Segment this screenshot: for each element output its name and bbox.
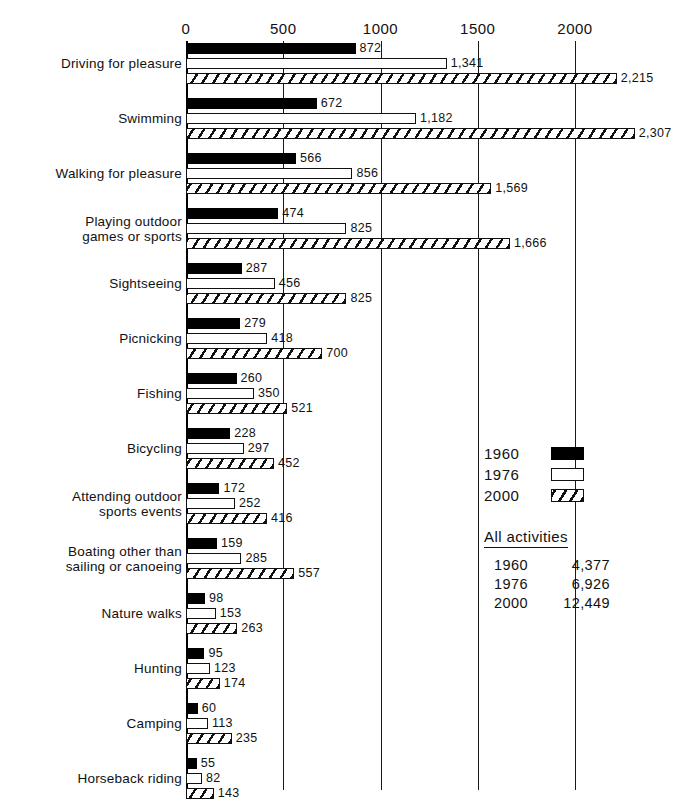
bar-1960 (186, 483, 219, 494)
bar-2000 (186, 73, 617, 84)
bar-2000 (186, 458, 274, 469)
bar-1976 (186, 278, 275, 289)
bar-track: 55 (0, 756, 696, 771)
totals-row: 200012,449 (484, 593, 610, 612)
bar-value-label: 2,307 (639, 126, 672, 141)
totals-year: 1960 (484, 557, 546, 573)
totals-value: 12,449 (546, 595, 610, 611)
bar-track: 82 (0, 771, 696, 786)
x-axis-tick-label: 0 (182, 20, 191, 37)
bar-track: 1,341 (0, 56, 696, 71)
bar-1960 (186, 208, 278, 219)
bar-track: 566 (0, 151, 696, 166)
bar-value-label: 521 (291, 401, 313, 416)
legend-item-label: 1976 (484, 466, 534, 483)
bar-value-label: 172 (223, 481, 245, 496)
bar-value-label: 825 (350, 291, 372, 306)
bar-value-label: 260 (241, 371, 263, 386)
category-group: Swimming6721,1822,307 (0, 96, 696, 151)
bar-1976 (186, 553, 241, 564)
bar-value-label: 228 (234, 426, 256, 441)
bar-track: 474 (0, 206, 696, 221)
diagonal-hatch-swatch (551, 489, 584, 502)
bar-value-label: 418 (271, 331, 293, 346)
bar-value-label: 856 (356, 166, 378, 181)
bar-track: 172 (0, 481, 696, 496)
bar-track: 350 (0, 386, 696, 401)
category-group: Picnicking279418700 (0, 316, 696, 371)
solid-black-swatch (551, 447, 584, 460)
bar-value-label: 98 (209, 591, 224, 606)
bar-1976 (186, 333, 267, 344)
category-group: Sightseeing287456825 (0, 261, 696, 316)
bar-value-label: 1,341 (451, 56, 484, 71)
bar-1976 (186, 663, 210, 674)
bar-1960 (186, 758, 197, 769)
bar-1960 (186, 98, 317, 109)
category-rows: Driving for pleasure8721,3412,215Swimmin… (0, 41, 696, 811)
bar-value-label: 95 (208, 646, 223, 661)
bar-value-label: 263 (241, 621, 263, 636)
bar-value-label: 279 (244, 316, 266, 331)
bar-value-label: 1,182 (420, 111, 453, 126)
bar-value-label: 1,569 (495, 181, 528, 196)
totals-title: All activities (484, 528, 568, 548)
x-axis-tick-labels: 0500100015002000 (0, 20, 696, 40)
bar-value-label: 159 (221, 536, 243, 551)
bar-1976 (186, 388, 254, 399)
bar-track: 123 (0, 661, 696, 676)
totals-value: 6,926 (546, 576, 610, 592)
bar-2000 (186, 128, 635, 139)
bar-track: 452 (0, 456, 696, 471)
bar-value-label: 456 (279, 276, 301, 291)
bar-value-label: 60 (202, 701, 217, 716)
bar-1976 (186, 443, 244, 454)
bar-track: 700 (0, 346, 696, 361)
bar-track: 1,182 (0, 111, 696, 126)
bar-value-label: 566 (300, 151, 322, 166)
bar-track: 825 (0, 291, 696, 306)
bar-value-label: 55 (201, 756, 216, 771)
bar-track: 143 (0, 786, 696, 801)
chart-page: 0500100015002000 Driving for pleasure872… (0, 0, 696, 811)
bar-track: 2,307 (0, 126, 696, 141)
bar-2000 (186, 788, 214, 799)
bar-value-label: 1,666 (514, 236, 547, 251)
bar-track: 287 (0, 261, 696, 276)
bar-track: 297 (0, 441, 696, 456)
bar-1976 (186, 608, 216, 619)
bar-track: 1,666 (0, 236, 696, 251)
bar-chart-plot-area: 0500100015002000 Driving for pleasure872… (0, 0, 696, 811)
bar-value-label: 252 (239, 496, 261, 511)
bar-value-label: 825 (350, 221, 372, 236)
bar-value-label: 82 (206, 771, 221, 786)
category-group: Hunting95123174 (0, 646, 696, 701)
bar-1976 (186, 498, 235, 509)
legend-item-label: 2000 (484, 487, 534, 504)
bar-value-label: 153 (220, 606, 242, 621)
bar-value-label: 416 (271, 511, 293, 526)
x-axis-tick-label: 1000 (363, 20, 398, 37)
bar-track: 252 (0, 496, 696, 511)
bar-1960 (186, 263, 242, 274)
bar-value-label: 287 (246, 261, 268, 276)
bar-2000 (186, 623, 237, 634)
bar-track: 95 (0, 646, 696, 661)
bar-1960 (186, 428, 230, 439)
bar-value-label: 2,215 (621, 71, 654, 86)
bar-track: 872 (0, 41, 696, 56)
bar-2000 (186, 183, 491, 194)
bar-1976 (186, 718, 208, 729)
bar-value-label: 143 (218, 786, 240, 801)
bar-1960 (186, 538, 217, 549)
bar-value-label: 174 (224, 676, 246, 691)
bar-2000 (186, 568, 294, 579)
x-axis-tick-label: 1500 (460, 20, 495, 37)
bar-value-label: 557 (298, 566, 320, 581)
bar-track: 856 (0, 166, 696, 181)
legend-item-label: 1960 (484, 445, 534, 462)
bar-1960 (186, 373, 237, 384)
bar-track: 279 (0, 316, 696, 331)
bar-2000 (186, 238, 510, 249)
bar-value-label: 285 (245, 551, 267, 566)
